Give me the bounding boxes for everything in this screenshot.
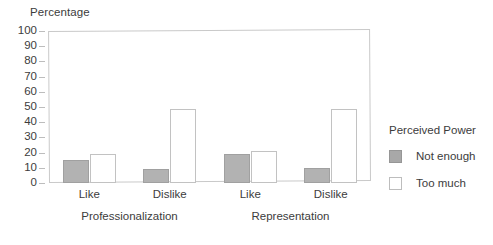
y-axis-tick-label: 50	[24, 101, 37, 113]
y-axis-tick-label: 70	[24, 71, 37, 83]
bar-too-much	[170, 109, 196, 183]
y-axis-tick-label: 60	[24, 86, 37, 98]
y-axis-tick-mark	[39, 107, 45, 108]
y-axis-tick-mark	[39, 183, 45, 184]
category-axis-labels: LikeDislikeLikeDislike	[49, 188, 371, 206]
group-label: Representation	[252, 210, 330, 222]
legend-title: Perceived Power	[389, 124, 493, 136]
bar-not-enough	[224, 154, 250, 183]
bar-series-container	[49, 31, 371, 183]
bar-too-much	[90, 154, 116, 183]
y-axis-tick-mark	[39, 122, 45, 123]
category-label: Like	[240, 188, 261, 200]
group-label: Professionalization	[81, 210, 178, 222]
legend-item: Too much	[389, 172, 493, 194]
bar-chart-figure: Percentage 1009080706050403020100 LikeDi…	[0, 0, 493, 245]
legend: Perceived Power Not enoughToo much	[389, 124, 493, 199]
y-axis-tick-label: 20	[24, 147, 37, 159]
y-axis-tick-mark	[39, 168, 45, 169]
bar-not-enough	[304, 168, 330, 183]
y-axis-tick-mark	[39, 77, 45, 78]
y-axis-tick-label: 80	[24, 55, 37, 67]
y-axis-tick-mark	[39, 61, 45, 62]
legend-item: Not enough	[389, 145, 493, 167]
y-axis-tick-mark	[39, 137, 45, 138]
legend-items: Not enoughToo much	[389, 145, 493, 194]
bar-too-much	[331, 109, 357, 183]
legend-item-label: Too much	[416, 177, 466, 189]
y-axis-tick-label: 0	[31, 177, 37, 189]
category-label: Like	[79, 188, 100, 200]
y-axis-tick-label: 100	[18, 25, 37, 37]
y-axis-tick-label: 90	[24, 40, 37, 52]
category-label: Dislike	[314, 188, 348, 200]
y-axis-tick-mark	[39, 46, 45, 47]
plot-area	[49, 31, 371, 183]
bar-too-much	[251, 151, 277, 183]
bar-not-enough	[63, 160, 89, 183]
bar-not-enough	[143, 169, 169, 183]
y-axis-title: Percentage	[30, 6, 90, 18]
y-axis-tick-mark	[39, 153, 45, 154]
group-axis-labels: ProfessionalizationRepresentation	[49, 210, 371, 228]
y-axis-tick-mark	[39, 92, 45, 93]
y-axis: 1009080706050403020100	[0, 24, 49, 184]
legend-item-label: Not enough	[416, 150, 475, 162]
gray-filled-swatch	[389, 150, 402, 163]
white-outline-swatch	[389, 177, 402, 190]
category-label: Dislike	[153, 188, 187, 200]
y-axis-tick-label: 10	[24, 162, 37, 174]
y-axis-tick-mark	[39, 31, 45, 32]
y-axis-tick-label: 30	[24, 131, 37, 143]
y-axis-tick-label: 40	[24, 116, 37, 128]
